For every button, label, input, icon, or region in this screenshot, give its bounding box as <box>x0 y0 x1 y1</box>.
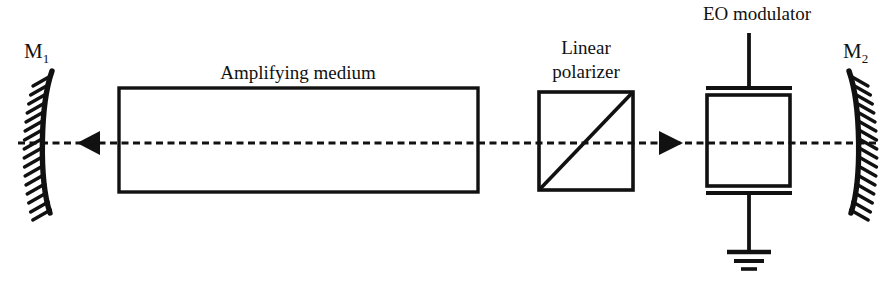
eo-modulator-label: EO modulator <box>703 3 812 24</box>
eo-modulator-crystal-box <box>707 95 790 186</box>
beam-arrow-right-head <box>659 131 683 155</box>
linear-polarizer-label-line2: polarizer <box>552 61 620 82</box>
mirror-right-group: M2 <box>843 39 877 220</box>
linear-polarizer-label-line1: Linear <box>561 37 611 58</box>
amplifying-medium-box <box>119 88 478 192</box>
beam-arrow-left-group <box>77 131 100 155</box>
mirror-left-group: M1 <box>24 39 52 220</box>
amplifying-medium-group: Amplifying medium <box>119 62 478 192</box>
beam-arrow-right-group <box>659 131 683 155</box>
amplifying-medium-label: Amplifying medium <box>220 62 376 83</box>
diagram-canvas: M1 Amplifying medium Linear polarizer <box>0 0 894 286</box>
ground-symbol <box>727 252 771 269</box>
mirror-right-label: M2 <box>843 39 868 66</box>
linear-polarizer-diagonal <box>540 93 632 189</box>
mirror-left-label: M1 <box>24 39 49 66</box>
beam-arrow-left-head <box>77 131 100 155</box>
eo-modulator-group: EO modulator <box>703 3 812 269</box>
linear-polarizer-group: Linear polarizer <box>539 37 633 190</box>
optical-cavity-diagram: M1 Amplifying medium Linear polarizer <box>0 0 894 286</box>
